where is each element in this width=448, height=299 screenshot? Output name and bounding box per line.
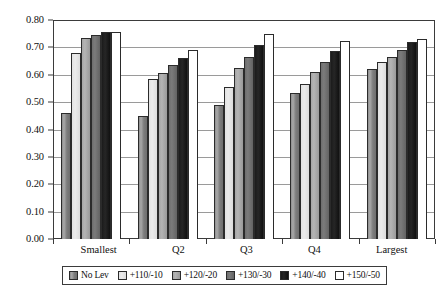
legend-item: +130/-30 (226, 271, 271, 281)
legend-swatch-icon (335, 271, 344, 280)
gridline (54, 130, 434, 131)
gridline (54, 75, 434, 76)
legend-swatch-icon (118, 271, 127, 280)
x-tick-label: Q2 (172, 245, 185, 263)
legend-label: +130/-30 (238, 271, 271, 281)
gridline (54, 212, 434, 213)
y-tick-label: 0.60 (26, 70, 44, 81)
gridline (54, 184, 434, 185)
y-axis: 0.800.700.600.500.400.300.200.100.00 (0, 0, 53, 245)
x-tick-mark (129, 239, 130, 244)
y-tick-label: 0.20 (26, 179, 44, 190)
x-tick-mark (435, 239, 436, 244)
legend-item: +150/-50 (335, 271, 380, 281)
y-tick-label: 0.50 (26, 97, 44, 108)
gridline (54, 47, 434, 48)
x-axis: SmallestQ2Q3Q4Largest (53, 245, 435, 263)
legend-label: No Lev (81, 271, 109, 281)
legend-item: +120/-20 (172, 271, 217, 281)
y-tick-label: 0.80 (26, 15, 44, 26)
legend-swatch-icon (172, 271, 181, 280)
x-tick-mark (53, 239, 54, 244)
x-tick-label: Q3 (240, 245, 253, 263)
legend-label: +140/-40 (292, 271, 325, 281)
x-tick-label: Largest (376, 245, 407, 263)
x-tick-label: Smallest (81, 245, 117, 263)
chart-legend: No Lev+110/-10+120/-20+130/-30+140/-40+1… (62, 266, 387, 285)
gridline (54, 102, 434, 103)
x-tick-mark (359, 239, 360, 244)
legend-item: No Lev (69, 271, 109, 281)
y-tick-label: 0.10 (26, 206, 44, 217)
legend-swatch-icon (69, 271, 78, 280)
legend-label: +150/-50 (347, 271, 380, 281)
legend-label: +110/-10 (130, 271, 163, 281)
x-tick-label: Q4 (308, 245, 321, 263)
plot-area (53, 20, 435, 239)
legend-swatch-icon (226, 271, 235, 280)
legend-label: +120/-20 (184, 271, 217, 281)
y-tick-label: 0.00 (26, 234, 44, 245)
y-tick-label: 0.40 (26, 124, 44, 135)
y-tick-label: 0.30 (26, 152, 44, 163)
y-tick-label: 0.70 (26, 42, 44, 53)
chart-figure: 0.800.700.600.500.400.300.200.100.00 Sma… (0, 0, 448, 299)
x-tick-mark (282, 239, 283, 244)
legend-swatch-icon (280, 271, 289, 280)
legend-item: +140/-40 (280, 271, 325, 281)
x-tick-mark (206, 239, 207, 244)
legend-item: +110/-10 (118, 271, 163, 281)
gridline (54, 157, 434, 158)
